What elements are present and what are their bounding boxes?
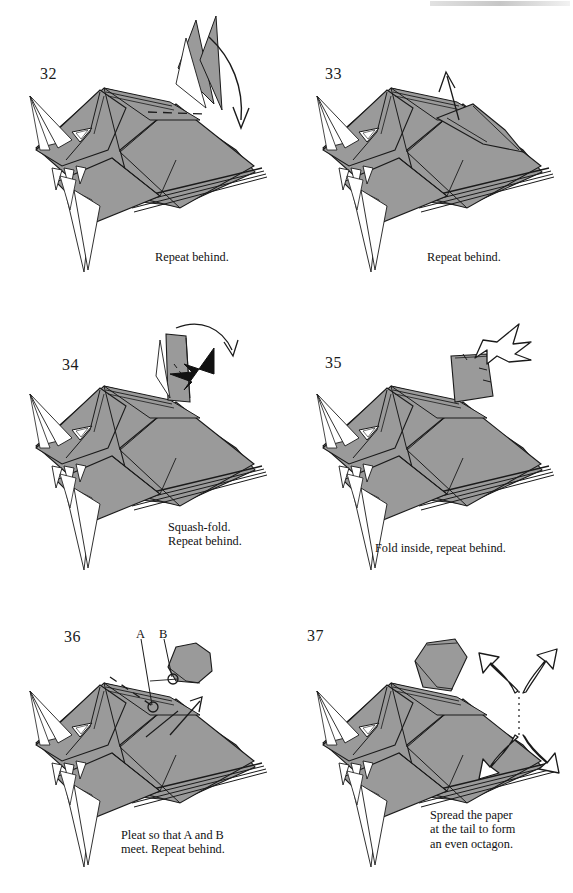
step-number: 32 [40, 65, 57, 83]
panel-step-34: 34 Squash-fold. Repeat behind. [0, 298, 286, 596]
panel-step-37: 37 Spread the paper at the tail to form … [287, 595, 573, 893]
step-caption: Spread the paper at the tail to form an … [430, 808, 515, 851]
panel-step-35: 35 Fold inside, repeat behind. [287, 298, 573, 596]
figure-step-34 [0, 298, 286, 596]
figure-step-32 [0, 0, 286, 298]
panel-step-36: 36 A B Pleat so that A and B meet. Repea… [0, 595, 286, 893]
step-caption: Squash-fold. Repeat behind. [168, 520, 242, 549]
point-label-b: B [159, 627, 167, 642]
step-number: 34 [62, 356, 79, 374]
step-caption: Pleat so that A and B meet. Repeat behin… [121, 828, 225, 857]
diagram-page: 32 Repeat behind. 33 Repeat behind. [0, 0, 573, 893]
rear-spikes [176, 16, 222, 110]
panel-step-32: 32 Repeat behind. [0, 0, 286, 298]
upright-flap [156, 334, 190, 402]
step-caption: Repeat behind. [155, 250, 229, 264]
step-number: 35 [325, 354, 342, 372]
step-caption: Fold inside, repeat behind. [375, 541, 506, 555]
spread-hollow-arrow-up-left [479, 653, 518, 693]
point-label-a: A [136, 627, 145, 642]
step-number: 36 [64, 628, 81, 646]
step-number: 33 [325, 65, 342, 83]
leader-line-b [164, 639, 172, 677]
neck-flap [150, 643, 212, 683]
neck-flap [415, 639, 467, 691]
step-caption: Repeat behind. [427, 250, 501, 264]
step-number: 37 [307, 627, 324, 645]
panel-step-33: 33 Repeat behind. [287, 0, 573, 298]
spread-hollow-arrow-up-right [523, 649, 557, 693]
